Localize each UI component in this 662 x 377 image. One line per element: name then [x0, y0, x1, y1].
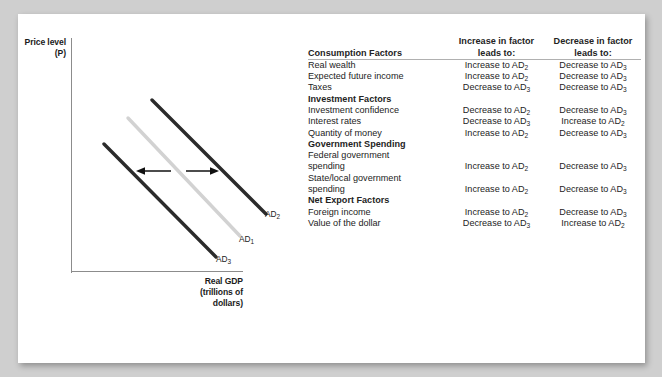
increase-effect-subscript: 2	[527, 109, 531, 116]
factor-name-line1: Real wealth	[308, 60, 356, 70]
figure-card: Price level (P) AD2 AD1 AD3	[18, 14, 645, 363]
decrease-effect: Decrease to AD3	[545, 60, 641, 72]
increase-effect-subscript: 2	[524, 132, 528, 139]
group-spacer-increase	[448, 139, 545, 151]
factor-name: Real wealth	[308, 60, 448, 72]
table-row: Foreign incomeIncrease to AD2Decrease to…	[308, 207, 641, 218]
factor-name: Taxes	[308, 82, 448, 93]
table-row: Interest ratesDecrease to AD3Increase to…	[308, 116, 641, 127]
increase-effect-subscript: 3	[527, 86, 531, 93]
ad3-curve	[104, 144, 216, 257]
x-axis-label-line3: dollars)	[213, 298, 243, 308]
increase-effect: Decrease to AD3	[448, 218, 545, 229]
factor-name: Quantity of money	[308, 128, 448, 139]
table-row: TaxesDecrease to AD3Decrease to AD3	[308, 82, 641, 93]
group-spacer-increase	[448, 195, 545, 207]
shift-left-arrow	[136, 167, 171, 175]
increase-effect: Decrease to AD2	[448, 105, 545, 116]
decrease-effect-text: Decrease to AD	[559, 207, 623, 217]
factor-name: Value of the dollar	[308, 218, 448, 229]
ad1-curve	[128, 118, 240, 236]
factors-table-body: Real wealthIncrease to AD2Decrease to AD…	[308, 60, 641, 229]
table-row: State/local governmentspendingIncrease t…	[308, 173, 641, 195]
factor-name-line1: Taxes	[308, 82, 332, 92]
table-group-row: Investment Factors	[308, 94, 641, 106]
group-heading: Net Export Factors	[308, 195, 448, 207]
factor-name-line2: spending	[308, 184, 345, 194]
increase-effect: Increase to AD2	[448, 150, 545, 172]
increase-effect: Increase to AD2	[448, 173, 545, 195]
column-header-factor: Consumption Factors	[308, 35, 448, 60]
increase-effect-text: Increase to AD	[465, 207, 525, 217]
factor-name: Expected future income	[308, 71, 448, 82]
table-row: Expected future incomeIncrease to AD2Dec…	[308, 71, 641, 82]
column-header-increase: Increase in factor leads to:	[448, 35, 545, 60]
decrease-effect: Decrease to AD3	[545, 82, 641, 93]
factor-name-line1: Federal government	[308, 150, 389, 160]
factor-name: Federal governmentspending	[308, 150, 448, 172]
table-row: Value of the dollarDecrease to AD3Increa…	[308, 218, 641, 229]
decrease-effect-text: Increase to AD	[561, 218, 621, 228]
decrease-effect-subscript: 3	[623, 86, 627, 93]
decrease-effect-text: Decrease to AD	[559, 82, 623, 92]
column-header-decrease-line2: leads to:	[574, 48, 611, 58]
group-spacer-decrease	[545, 139, 641, 151]
decrease-effect: Decrease to AD3	[545, 105, 641, 116]
x-axis-label-line2: (trillions of	[200, 287, 243, 297]
factor-name: Interest rates	[308, 116, 448, 127]
ad-curves-svg	[18, 14, 308, 363]
table-group-row: Net Export Factors	[308, 195, 641, 207]
factor-name: Foreign income	[308, 207, 448, 218]
factor-name-line2: spending	[308, 161, 345, 171]
table-header-row: Consumption Factors Increase in factor l…	[308, 35, 641, 60]
group-spacer-decrease	[545, 94, 641, 106]
ad3-curve-label: AD3	[216, 254, 231, 264]
decrease-effect-subscript: 3	[623, 75, 627, 82]
increase-effect: Increase to AD2	[448, 71, 545, 82]
decrease-effect: Decrease to AD3	[545, 71, 641, 82]
factor-name-line1: Value of the dollar	[308, 218, 381, 228]
decrease-effect-text: Decrease to AD	[559, 184, 623, 194]
increase-effect-text: Increase to AD	[465, 161, 525, 171]
factor-name-line1: Foreign income	[308, 207, 371, 217]
decrease-effect: Decrease to AD3	[545, 150, 641, 172]
increase-effect-subscript: 2	[524, 75, 528, 82]
factor-name-line1: Quantity of money	[308, 128, 382, 138]
ad1-curve-label: AD1	[239, 234, 254, 244]
increase-effect: Increase to AD2	[448, 128, 545, 139]
factor-name-line1: Investment confidence	[308, 105, 399, 115]
increase-effect: Increase to AD2	[448, 207, 545, 218]
increase-effect-subscript: 3	[527, 120, 531, 127]
increase-effect-text: Increase to AD	[465, 71, 525, 81]
decrease-effect-subscript: 3	[623, 165, 627, 172]
shift-right-arrow	[186, 167, 219, 175]
decrease-effect: Decrease to AD3	[545, 173, 641, 195]
factor-name: Investment confidence	[308, 105, 448, 116]
factor-name-line1: State/local government	[308, 173, 401, 183]
decrease-effect-subscript: 3	[623, 109, 627, 116]
group-spacer-decrease	[545, 195, 641, 207]
decrease-effect-text: Decrease to AD	[559, 128, 623, 138]
aggregate-demand-chart: Price level (P) AD2 AD1 AD3	[18, 14, 308, 363]
increase-effect-text: Decrease to AD	[463, 105, 527, 115]
increase-effect: Decrease to AD3	[448, 82, 545, 93]
increase-effect-subscript: 2	[524, 165, 528, 172]
factor-name: State/local governmentspending	[308, 173, 448, 195]
group-heading: Government Spending	[308, 139, 448, 151]
table-row: Investment confidenceDecrease to AD2Decr…	[308, 105, 641, 116]
ad2-curve-label: AD2	[265, 209, 280, 219]
increase-effect-subscript: 2	[524, 188, 528, 195]
table-row: Real wealthIncrease to AD2Decrease to AD…	[308, 60, 641, 72]
x-axis-label-line1: Real GDP	[205, 276, 243, 286]
ad2-curve	[152, 100, 266, 214]
decrease-effect-subscript: 3	[623, 132, 627, 139]
increase-effect-text: Decrease to AD	[463, 116, 527, 126]
table-row: Quantity of moneyIncrease to AD2Decrease…	[308, 128, 641, 139]
increase-effect: Decrease to AD3	[448, 116, 545, 127]
factor-name-line1: Expected future income	[308, 71, 404, 81]
group-spacer-increase	[448, 94, 545, 106]
table-group-row: Government Spending	[308, 139, 641, 151]
table-row: Federal governmentspendingIncrease to AD…	[308, 150, 641, 172]
factors-table-panel: Consumption Factors Increase in factor l…	[308, 35, 645, 229]
decrease-effect-text: Decrease to AD	[559, 105, 623, 115]
